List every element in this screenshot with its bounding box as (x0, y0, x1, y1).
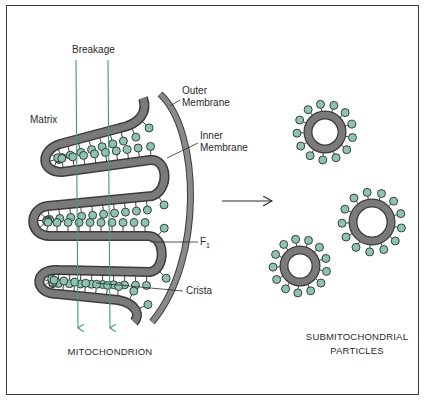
f1-particle-icon (130, 287, 138, 295)
f1-particle-icon (130, 219, 138, 227)
f1-particle-icon (316, 100, 324, 108)
f1-particle-icon (306, 152, 314, 160)
f1-particle-icon (352, 243, 360, 251)
f1-particle-icon (121, 208, 129, 216)
f1-particle-icon (322, 254, 330, 262)
f1-particle-icon (44, 218, 52, 226)
f1-particle-icon (69, 153, 77, 161)
f1-particle-icon (147, 142, 155, 150)
f1-particle-icon (162, 274, 170, 282)
f1-particle-icon (348, 134, 356, 142)
f1-particle-icon (115, 283, 123, 291)
smp-caption-line1: SUBMITOCHONDRIAL (297, 330, 417, 344)
f1-particle-icon (123, 145, 131, 153)
f1-particle-icon (272, 250, 280, 258)
f1-particle-icon (363, 188, 371, 196)
f1-particle-icon (104, 281, 112, 289)
f1-particle-icon (80, 151, 88, 159)
f1-particle-icon (82, 279, 90, 287)
f1-particle-icon (86, 219, 94, 227)
f1-particle-icon (391, 237, 399, 245)
matrix-label: Matrix (30, 114, 57, 126)
f1-particle-icon (397, 210, 405, 218)
mitochondrion-caption: MITOCHONDRION (60, 345, 160, 359)
f1-particle-icon (160, 201, 168, 209)
f1-particle-icon (75, 219, 83, 227)
f1-particle-icon (64, 219, 72, 227)
f1-particle-icon (282, 285, 290, 293)
f1-particle-icon (132, 207, 140, 215)
f1-particle-icon (366, 248, 374, 256)
f1-particle-icon (330, 101, 338, 109)
f1-particle-icon (292, 235, 300, 243)
outer-membrane (152, 94, 191, 322)
f1-particle-icon (100, 210, 108, 218)
f1-particle-icon (305, 236, 313, 244)
outer-membrane-label-line2: Membrane (182, 97, 230, 109)
f1-particle-icon (341, 205, 349, 213)
f1-particle-icon (294, 289, 302, 297)
smp-vesicle (269, 235, 330, 297)
smp-vesicle (338, 188, 405, 256)
f1-particle-icon (134, 144, 142, 152)
f1-particle-icon (341, 109, 349, 117)
f1-particle-icon (315, 243, 323, 251)
f1-particle-icon (119, 219, 127, 227)
f1-particle-icon (93, 280, 101, 288)
f1-particle-icon (390, 197, 398, 205)
f1-particle-icon (377, 190, 385, 198)
f1-particle-icon (119, 137, 127, 145)
smp-vesicle (293, 100, 356, 164)
f1-particle-icon (397, 224, 405, 232)
f1-particle-icon (342, 233, 350, 241)
f1-particle-icon (50, 276, 58, 284)
f1-particle-icon (269, 263, 277, 271)
smp-caption-line2: PARTICLES (297, 344, 417, 358)
f1-particle-icon (350, 194, 358, 202)
f1-particle-icon (160, 224, 168, 232)
f1-label-sub: 1 (206, 242, 210, 249)
f1-particle-icon (296, 116, 304, 124)
f1-particle-icon (307, 287, 315, 295)
f1-particle-icon (273, 276, 281, 284)
f1-particle-icon (97, 219, 105, 227)
submitochondrial-particles (269, 100, 405, 297)
breakage-label: Breakage (72, 44, 115, 56)
f1-particle-icon (53, 219, 61, 227)
f1-particle-icon (332, 154, 340, 162)
f1-particle-icon (304, 106, 312, 114)
f1-particle-icon (317, 279, 325, 287)
f1-label: F1 (200, 236, 210, 252)
f1-particle-icon (144, 301, 152, 309)
f1-particle-icon (319, 156, 327, 164)
outer-membrane-label: Outer Membrane (182, 85, 230, 109)
outer-membrane-label-line1: Outer (182, 85, 230, 97)
f1-particle-icon (338, 219, 346, 227)
f1-particle-icon (297, 142, 305, 150)
f1-particle-icon (141, 219, 149, 227)
f1-particle-icon (132, 133, 140, 141)
inner-membrane-label: Inner Membrane (200, 130, 248, 154)
f1-particle-icon (111, 209, 119, 217)
f1-particle-icon (380, 246, 388, 254)
f1-particle-icon (293, 129, 301, 137)
f1-particle-icon (143, 206, 151, 214)
f1-particle-icon (280, 240, 288, 248)
f1-particle-icon (348, 120, 356, 128)
inner-membrane-label-line1: Inner (200, 130, 248, 142)
f1-particle-icon (91, 150, 99, 158)
f1-particle-icon (322, 267, 330, 275)
smp-caption: SUBMITOCHONDRIAL PARTICLES (297, 330, 417, 358)
crista-label: Crista (186, 285, 212, 297)
f1-particle-icon (145, 124, 153, 132)
inner-membrane-label-line2: Membrane (200, 142, 248, 154)
f1-particle-icon (58, 154, 66, 162)
f1-particle-icon (343, 146, 351, 154)
f1-particle-icon (60, 277, 68, 285)
f1-particle-icon (112, 147, 120, 155)
